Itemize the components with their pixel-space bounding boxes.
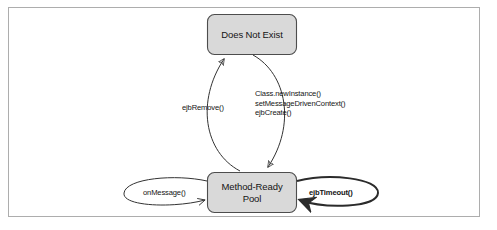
state-box-shape [208,15,297,55]
state-box-shape [208,173,297,213]
state-method-ready-pool[interactable] [208,173,297,213]
diagram-page: Does Not Exist Method-Ready Pool ejbRemo… [0,0,497,230]
on-message-loop[interactable] [124,178,207,205]
state-does-not-exist[interactable] [208,15,297,55]
diagram-canvas [0,0,497,230]
remove-transition-arrow[interactable] [207,59,240,171]
create-transition-arrow[interactable] [253,55,285,167]
ejb-timeout-loop[interactable] [297,177,378,206]
